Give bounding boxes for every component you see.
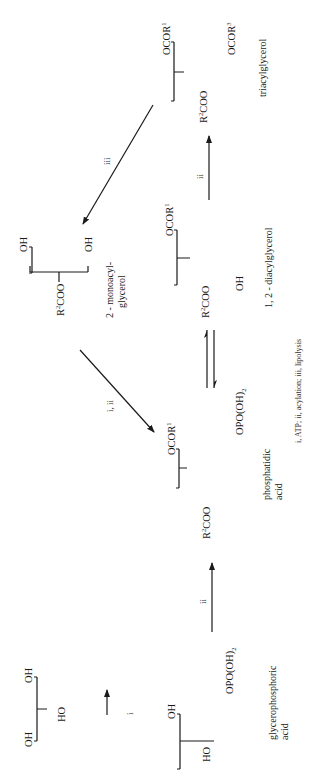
reaction-scheme: OH OH HO i OH OPO(OH)2 HO glycerophospho… (0, 0, 312, 776)
gpa-name-line1: glycerophosphoric (267, 665, 278, 740)
dag-bottom-group: OH (234, 275, 245, 291)
mag-bracket-horizontal (30, 266, 88, 282)
mag-name-line1: 2 - monoacyl- (104, 262, 115, 318)
arrow-line (83, 105, 153, 224)
tag-name: triacylglycerol (257, 38, 268, 97)
gpa-top-group: OH (166, 703, 177, 719)
mag-middle-group: R2COO (54, 283, 66, 316)
glycerol-top-group: OH (23, 667, 34, 683)
pa-bottom-group: OPO(OH)2 (234, 389, 247, 435)
tag-middle-group: R2COO (197, 90, 209, 123)
dag-top-group: OCOR1 (163, 204, 175, 236)
tag-top-group: OCOR1 (160, 23, 172, 55)
dag-name: 1, 2 - diacylglycerol (263, 227, 274, 308)
tag-bottom-group: OCOR3 (225, 23, 237, 55)
reaction-arrow-ii-2: ii (195, 136, 209, 200)
compound-monoacylglycerol: OH OH R2COO 2 - monoacyl- glycerol (18, 236, 127, 318)
reaction-label-i: i (125, 712, 135, 715)
triacylglycerol-backbone (171, 42, 184, 101)
figure-caption: i, ATP; ii, acylation; iii, lipolysis (294, 339, 303, 443)
arrow-line (80, 350, 154, 432)
pa-name-line2: acid (273, 483, 284, 500)
compound-glycerophosphoric-acid: OH OPO(OH)2 HO glycerophosphoric acid (166, 648, 290, 769)
gpa-middle-group: HO (201, 746, 212, 762)
compound-phosphatidic-acid: OCOR1 OPO(OH)2 R2COO phosphatidic acid (165, 389, 284, 539)
glycerol-backbone (34, 677, 47, 741)
reaction-arrow-ii-1: ii (198, 563, 212, 632)
pa-name-line1: phosphatidic (261, 448, 272, 500)
compound-glycerol: OH OH HO (23, 667, 67, 747)
pa-top-group: OCOR1 (165, 423, 177, 455)
glycerol-middle-group: HO (56, 706, 67, 722)
dag-middle-group: R2COO (199, 285, 211, 318)
reaction-arrow-i-ii: i, ii (80, 350, 154, 432)
mag-name-line2: glycerol (116, 275, 127, 308)
compound-diacylglycerol: OCOR1 OH R2COO 1, 2 - diacylglycerol (163, 204, 274, 318)
pa-middle-group: R2COO (200, 506, 212, 539)
gpa-name-line2: acid (279, 723, 290, 740)
reaction-label-i-ii: i, ii (105, 399, 115, 412)
reaction-equilibrium (204, 330, 217, 388)
diacylglycerol-backbone (174, 230, 190, 285)
reaction-arrow-iii: iii (83, 105, 153, 224)
glycerol-bottom-group: OH (23, 731, 34, 747)
phosphatidic-backbone (176, 449, 187, 488)
gpa-bottom-group: OPO(OH)2 (224, 648, 237, 694)
reaction-label-ii: ii (195, 173, 205, 179)
reaction-arrow-i-1: i (107, 690, 135, 715)
reaction-label-ii: ii (198, 598, 208, 604)
reaction-label-iii: iii (102, 157, 112, 165)
compound-triacylglycerol: OCOR1 OCOR3 R2COO triacylglycerol (160, 23, 268, 123)
mag-top-group: OH (18, 236, 29, 252)
mag-bottom-group: OH (83, 236, 94, 252)
